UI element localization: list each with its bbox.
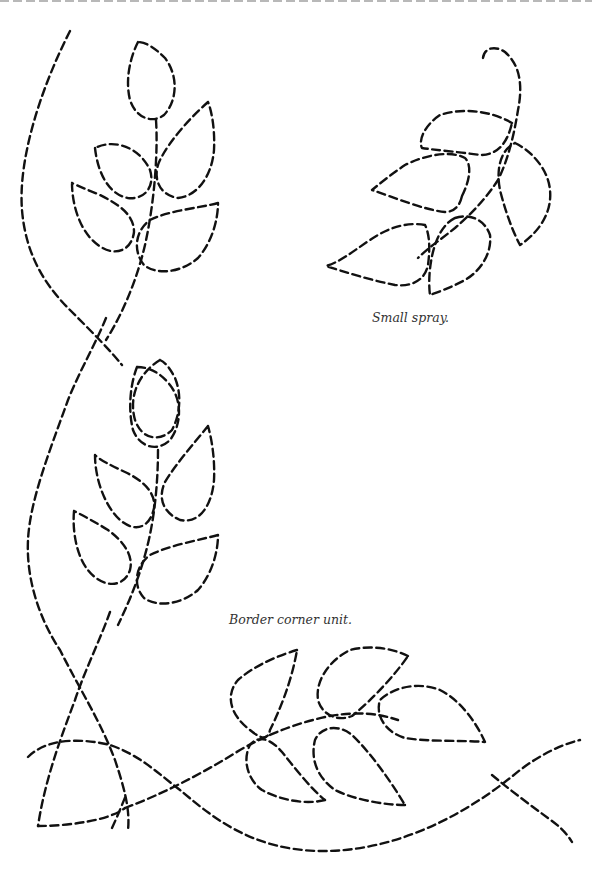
leaf-mid-2 — [162, 426, 214, 521]
spray-leaf-5 — [429, 216, 490, 295]
spray-leaf-4 — [326, 224, 429, 285]
caption-border-corner-unit: Border corner unit. — [229, 612, 352, 627]
leaf-bottom-1 — [231, 650, 297, 738]
leaf-bottom-5 — [314, 728, 405, 805]
quilting-pattern-canvas — [0, 0, 592, 871]
vine-bottom-loop — [38, 808, 125, 826]
vine-inner-left — [28, 318, 129, 830]
leaf-mid-5 — [137, 535, 218, 604]
leaf-top-4 — [157, 102, 215, 198]
caption-small-spray: Small spray. — [372, 310, 449, 325]
stem-top — [106, 120, 157, 340]
leaf-top-2 — [95, 144, 151, 198]
leaf-top-6 — [137, 203, 218, 271]
spray-leaf-2 — [372, 154, 469, 212]
vine-right-cross — [492, 775, 572, 842]
small-spray-motif — [326, 48, 550, 295]
vine-second — [38, 612, 110, 826]
leaf-top-3 — [128, 42, 175, 119]
stem-mid — [118, 450, 158, 625]
leaf-top-5 — [72, 183, 134, 251]
vine-stem-lower — [125, 713, 398, 808]
leaf-bottom-2 — [318, 648, 408, 719]
leaf-mid-1 — [130, 367, 179, 447]
border-corner-vine — [22, 31, 580, 851]
leaf-mid-3 — [95, 455, 154, 527]
leaf-bottom-3 — [379, 686, 485, 742]
vine-cross-stroke — [112, 795, 126, 828]
spray-leaf-1 — [421, 111, 512, 155]
vine-corner-arc — [28, 740, 580, 851]
